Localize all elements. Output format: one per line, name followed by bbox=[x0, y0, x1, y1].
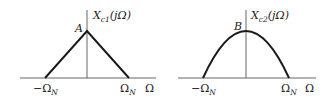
panel-xc1: Xc1(jΩ) A −ΩN ΩN Ω bbox=[20, 9, 156, 97]
panel1-title: Xc1(jΩ) bbox=[92, 9, 131, 24]
axis-label-omega: Ω bbox=[145, 82, 154, 95]
left-tick-label: −ΩN bbox=[191, 82, 216, 97]
peak-label-b: B bbox=[233, 20, 242, 33]
right-tick-label: ΩN bbox=[281, 82, 297, 97]
panel-xc2: Xc2(jΩ) B −ΩN ΩN Ω bbox=[178, 9, 316, 97]
axis-label-omega: Ω bbox=[305, 82, 314, 95]
spectrum-diagram: Xc1(jΩ) A −ΩN ΩN Ω Xc2(jΩ) B −ΩN ΩN Ω bbox=[0, 0, 326, 101]
left-tick-label: −ΩN bbox=[33, 82, 58, 97]
right-tick-label: ΩN bbox=[120, 82, 136, 97]
panel2-title: Xc2(jΩ) bbox=[250, 9, 289, 24]
peak-label-a: A bbox=[74, 22, 83, 35]
